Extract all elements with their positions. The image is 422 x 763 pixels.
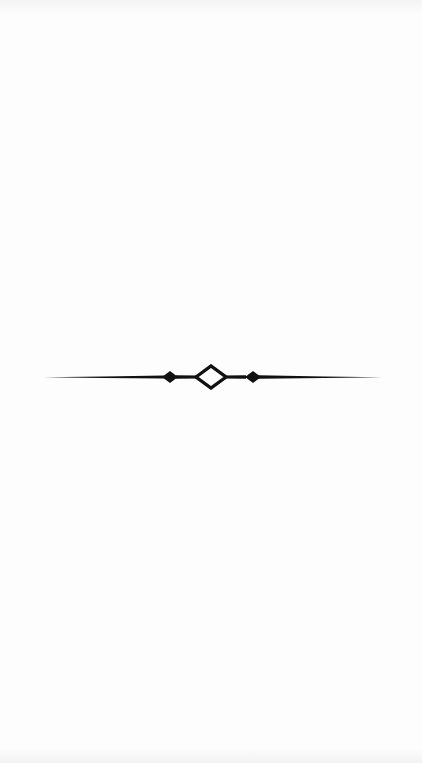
solid-diamond-left [162,371,178,383]
hollow-diamond-center [196,366,226,388]
tapered-rule-left [44,375,170,379]
ornamental-divider-icon [44,364,382,390]
book-page [0,0,422,763]
tapered-rule-right [253,375,382,379]
